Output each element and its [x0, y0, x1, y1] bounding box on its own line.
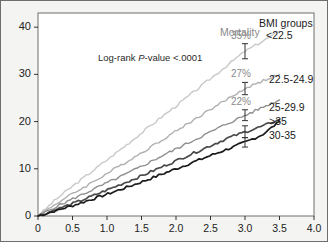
y-axis-tick-label-40: 40 — [19, 20, 31, 32]
x-axis-tick-label-2.5: 2.5 — [197, 222, 225, 234]
y-axis-tick-label-10: 10 — [19, 162, 31, 174]
y-axis-tick-label-0: 0 — [25, 209, 31, 221]
error-bar-label-25-29.9: 22% — [231, 96, 251, 107]
x-axis-tick-label-1.0: 1.0 — [93, 222, 121, 234]
y-axis-tick-label-20: 20 — [19, 115, 31, 127]
legend-item-<22.5: <22.5 — [266, 29, 293, 41]
y-axis-tick-label-30: 30 — [19, 67, 31, 79]
figure-panel: 01020304000.51.01.52.02.53.03.54.035%27%… — [0, 0, 328, 242]
logrank-p-symbol: P — [138, 52, 144, 63]
legend-item-30-35: 30-35 — [269, 129, 296, 141]
legend-item->35: >35 — [269, 115, 287, 127]
legend-item-22.5-24.9: 22.5-24.9 — [269, 73, 313, 85]
x-axis-tick-label-3.5: 3.5 — [266, 222, 294, 234]
x-axis-tick-label-3.0: 3.0 — [231, 222, 259, 234]
legend-title: BMI groups — [259, 17, 313, 29]
legend-item-25-29.9: 25-29.9 — [269, 101, 305, 113]
x-axis-tick-label-0: 0 — [24, 222, 52, 234]
x-axis-tick-label-0.5: 0.5 — [59, 222, 87, 234]
logrank-annotation: Log-rank P-value <.0001 — [98, 52, 202, 63]
x-axis-tick-label-4.0: 4.0 — [300, 222, 328, 234]
x-axis-tick-label-1.5: 1.5 — [128, 222, 156, 234]
mortality-caption: Mortality — [220, 26, 260, 38]
x-axis-tick-label-2.0: 2.0 — [162, 222, 190, 234]
error-bar-label-22.5-24.9: 27% — [231, 68, 251, 79]
